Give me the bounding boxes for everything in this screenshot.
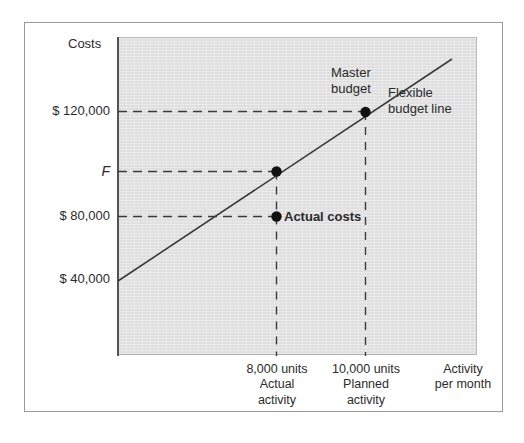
x-axis-title-line2: per month [420, 377, 506, 392]
x-axis-title: Activity per month [420, 362, 506, 393]
x-tick-10000-activity: activity [310, 393, 422, 408]
y-tick-label-120000: $ 120,000 [18, 103, 110, 119]
y-axis-line [117, 37, 119, 356]
flexible-budget-chart-figure: Costs $ 120,000 F $ 80,000 $ 40,000 Mast… [0, 0, 524, 443]
annotation-master-budget: Master budget [331, 65, 371, 97]
annotation-master-budget-line2: budget [331, 81, 371, 97]
annotation-flexible-budget-line: Flexible budget line [388, 85, 452, 117]
y-tick-label-40000: $ 40,000 [18, 271, 110, 287]
x-tick-group-10000-units: 10,000 units Planned activity [310, 362, 422, 408]
x-tick-10000-units: 10,000 units [310, 362, 422, 377]
x-axis-title-line1: Activity [420, 362, 506, 377]
annotation-flexible-line1: Flexible [388, 85, 452, 101]
x-tick-10000-kind: Planned [310, 377, 422, 392]
annotation-master-budget-line1: Master [331, 65, 371, 81]
annotation-actual-costs: Actual costs [284, 209, 361, 225]
y-tick-label-80000: $ 80,000 [18, 208, 110, 224]
y-tick-label-f: F [18, 163, 110, 180]
annotation-flexible-line2: budget line [388, 101, 452, 117]
y-axis-title: Costs [68, 36, 101, 52]
